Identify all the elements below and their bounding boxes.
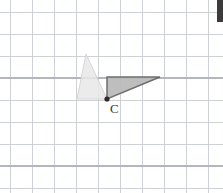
geometry-figure-svg: C: [0, 0, 223, 193]
point-c-label: C: [110, 101, 119, 116]
geometry-figure-canvas: C: [0, 0, 223, 193]
point-c-dot: [104, 96, 109, 101]
right-edge-marker: [217, 0, 223, 22]
